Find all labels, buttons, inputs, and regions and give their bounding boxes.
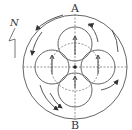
diagram: N A B xyxy=(0,0,132,130)
label-a: A xyxy=(70,2,80,15)
center-dot xyxy=(73,65,77,69)
north-arrow-icon: N xyxy=(9,17,20,58)
north-label: N xyxy=(9,17,20,28)
up-arrow-icons xyxy=(50,36,100,88)
label-b: B xyxy=(71,119,79,130)
